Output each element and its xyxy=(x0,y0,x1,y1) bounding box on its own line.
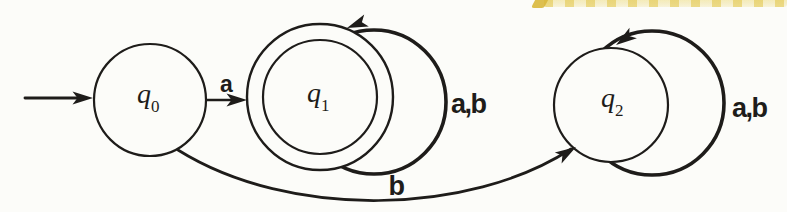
q0-q2-label: b xyxy=(389,171,405,201)
q0-label: q xyxy=(137,78,151,109)
q2-selfloop-label: a,b xyxy=(732,93,768,123)
start-arrow xyxy=(25,92,93,105)
q2-selfloop-arrowhead xyxy=(616,28,637,45)
q2-label: q xyxy=(601,82,615,113)
q0-label-subscript: 0 xyxy=(151,97,160,116)
q1-selfloop-arrowhead xyxy=(347,14,369,28)
state-q0: q 0 xyxy=(94,44,206,156)
transition-q0-q1: a xyxy=(207,71,247,107)
q0-q1-label: a xyxy=(220,71,233,97)
q0-q2-arrowhead xyxy=(555,147,576,164)
state-q1: q 1 xyxy=(247,24,393,170)
automaton-diagram: q 1 q 0 q 2 a b xyxy=(0,0,787,212)
q1-label-subscript: 1 xyxy=(321,96,330,115)
q1-label: q xyxy=(307,77,321,108)
q1-selfloop-label: a,b xyxy=(451,89,487,119)
q2-label-subscript: 2 xyxy=(615,101,624,120)
state-q2: q 2 xyxy=(554,48,668,162)
scanned-page: q 1 q 0 q 2 a b xyxy=(0,0,787,212)
